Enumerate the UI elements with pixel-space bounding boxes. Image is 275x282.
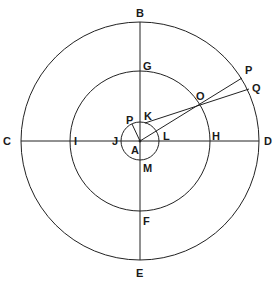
concentric-circles-diagram: B G C I J L H D P K A M F E O P Q	[0, 0, 275, 282]
label-D: D	[264, 135, 272, 147]
label-P-outer: P	[245, 64, 252, 76]
line-A-through-O-to-P	[140, 78, 242, 141]
label-G: G	[143, 60, 152, 72]
label-M: M	[143, 162, 152, 174]
label-O: O	[196, 90, 205, 102]
center-point-A	[139, 140, 142, 143]
label-J: J	[112, 135, 118, 147]
label-P-inner: P	[126, 114, 133, 126]
label-A: A	[131, 144, 139, 156]
label-E: E	[136, 267, 143, 279]
diagram-canvas: B G C I J L H D P K A M F E O P Q	[0, 0, 275, 282]
radius-A-to-P	[132, 124, 140, 141]
label-B: B	[136, 7, 144, 19]
label-C: C	[3, 135, 11, 147]
label-I: I	[74, 135, 77, 147]
label-K: K	[144, 110, 152, 122]
label-F: F	[143, 215, 150, 227]
label-L: L	[163, 130, 170, 142]
label-H: H	[212, 130, 220, 142]
label-Q: Q	[252, 82, 261, 94]
